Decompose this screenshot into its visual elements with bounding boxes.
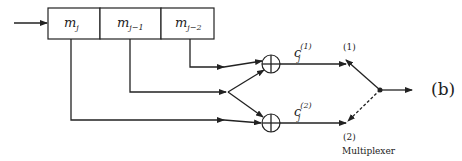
tap-mj-to-adder2 <box>224 120 261 123</box>
tap-mj-1-to-adder1 <box>228 70 264 92</box>
port-label-2: (2) <box>343 132 356 142</box>
tap-mj-2-wire <box>190 39 224 67</box>
convolutional-encoder-diagram: mj mj−1 mj−2 c(1)j c(2)j (1) (2) <box>0 0 462 161</box>
switch-arm-active <box>346 60 380 90</box>
tap-mj-wire <box>71 39 224 120</box>
switch-arm-inactive <box>348 90 380 121</box>
adder-1-icon <box>262 55 280 73</box>
multiplexer-label: Multiplexer <box>342 146 396 156</box>
tap-mj-2-to-adder1 <box>224 61 262 67</box>
adder-2-icon <box>262 114 280 132</box>
tap-mj-1-to-adder2 <box>228 92 263 117</box>
output-2-label: c(2)j <box>294 101 312 122</box>
shift-register: mj mj−1 mj−2 <box>48 8 214 39</box>
port-label-1: (1) <box>343 42 356 52</box>
output-1-label: c(1)j <box>294 42 312 63</box>
tap-mj-1-wire <box>130 39 226 92</box>
figure-label: (b) <box>431 79 455 99</box>
